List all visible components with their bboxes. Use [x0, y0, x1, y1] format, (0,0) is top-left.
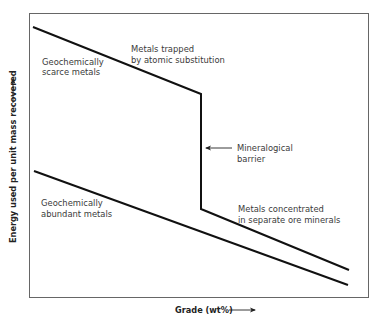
barrier-label: Mineralogical barrier: [237, 143, 295, 164]
energy-grade-diagram: Geochemically scarce metals Metals trapp…: [0, 0, 378, 322]
x-axis-label: Grade (wt%): [175, 305, 233, 315]
trapped-label: Metals trapped by atomic substitution: [131, 44, 225, 65]
scarce-label: Geochemically scarce metals: [42, 57, 106, 77]
abundant-metals-curve: [34, 171, 348, 285]
abundant-label: Geochemically abundant metals: [41, 198, 112, 219]
concentrated-label: Metals concentrated in separate ore mine…: [238, 204, 340, 225]
